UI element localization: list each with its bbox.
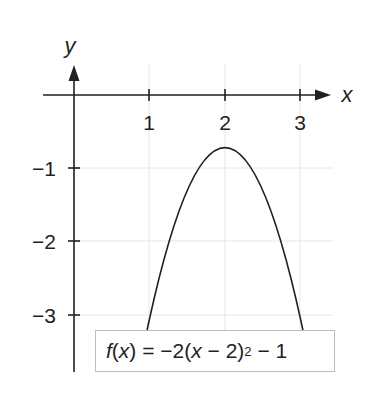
- y-axis-label: y: [63, 33, 78, 58]
- x-axis-arrow-icon: [315, 90, 331, 101]
- legend-close-paren: ): [129, 339, 136, 363]
- x-axis: [43, 89, 320, 101]
- x-tick-label: 2: [219, 111, 231, 134]
- legend-equals: = −2(: [136, 339, 191, 363]
- y-axis: [68, 78, 80, 372]
- x-axis-label: x: [341, 82, 354, 107]
- legend-tail: − 1: [252, 339, 288, 363]
- legend-minus-two: − 2): [202, 339, 245, 363]
- x-tick-label: 1: [143, 111, 155, 134]
- legend-exponent: 2: [244, 344, 251, 359]
- legend-x: x: [191, 339, 202, 363]
- x-tick-label: 3: [294, 111, 306, 134]
- y-axis-arrow-icon: [69, 65, 80, 81]
- legend-open-paren: (: [112, 339, 119, 363]
- y-tick-label: −1: [32, 157, 56, 180]
- function-legend: f(x) = −2(x − 2)2 − 1: [95, 330, 335, 372]
- legend-x: x: [119, 339, 130, 363]
- y-tick-label: −2: [32, 230, 56, 253]
- y-tick-label: −3: [32, 304, 56, 327]
